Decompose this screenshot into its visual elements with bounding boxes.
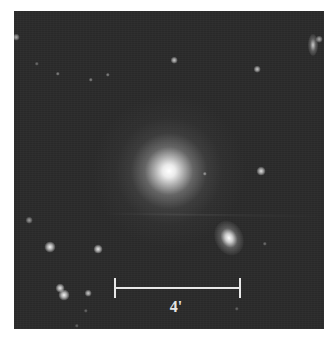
star bbox=[94, 245, 103, 254]
star bbox=[14, 34, 19, 41]
scale-bar bbox=[114, 278, 241, 298]
star bbox=[254, 66, 261, 73]
star bbox=[257, 167, 266, 176]
star bbox=[316, 36, 323, 43]
scale-bar-line bbox=[114, 287, 241, 289]
star bbox=[59, 290, 70, 301]
scale-bar-left-cap bbox=[114, 278, 116, 298]
scale-bar-label: 4' bbox=[164, 298, 188, 316]
star bbox=[26, 217, 33, 224]
star bbox=[45, 242, 56, 253]
scale-bar-right-cap bbox=[239, 278, 241, 298]
star bbox=[171, 57, 178, 64]
star bbox=[85, 290, 92, 297]
astronomical-image: 4' bbox=[14, 11, 324, 329]
